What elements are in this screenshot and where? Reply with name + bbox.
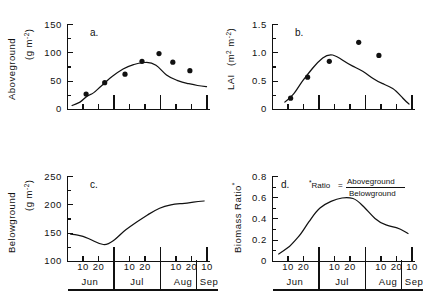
xtick-day-aug-20-right: 20 (391, 261, 403, 272)
xaxis-labels-left: 10 20 10 20 10 20 10 Jun Jul Aug Sep (0, 258, 218, 306)
panel-c-yaxis-title: Belowground (g m-2) (6, 180, 34, 253)
panel-c-ytick-150: 150 (44, 227, 62, 238)
panel-b-lai: LAI (m2 m-2) 1.5 1.0 0.5 0 (219, 0, 437, 153)
panel-a-aboveground: Aboveground (g m-2) 150 100 50 0 (0, 0, 218, 153)
panel-a-yaxis-unit: (g m-2) (23, 29, 34, 60)
panel-a-axes (68, 24, 211, 110)
xtick-day-jun-10-right: 10 (282, 261, 294, 272)
panel-c-ytick-250: 250 (44, 171, 62, 182)
panel-a-curve (72, 62, 206, 105)
panel-d-yaxis-title: Biomass Ratio* (231, 182, 243, 253)
panel-b-yaxis-title: LAI (m2 m-2) (225, 28, 236, 90)
panel-d-yaxis-title-main: Biomass Ratio* (231, 182, 243, 253)
ratio-numerator: Aboveground (347, 177, 395, 186)
panel-b-ytick-marks (273, 25, 279, 110)
ratio-denominator: Belowground (349, 189, 396, 198)
panel-a-xtick-marks (83, 95, 207, 110)
panel-d-ratio-annotation: *Ratio = Aboveground Belowground (309, 177, 405, 198)
panel-d-ytick-marks (273, 177, 279, 262)
panel-a-ytick-0: 0 (56, 103, 62, 114)
xtick-month-sep-right: Sep (405, 276, 423, 287)
panel-d-curve (279, 198, 408, 254)
xaxis-labels-right: 10 20 10 20 10 20 10 Jun Jul Aug Sep (219, 258, 437, 306)
panel-b-xtick-marks (288, 95, 412, 110)
xtick-day-sep-10-right: 10 (406, 261, 418, 272)
panel-b-ytick-1-0: 1.0 (252, 47, 267, 58)
xtick-month-jun-right: Jun (287, 276, 304, 287)
xtick-day-sep-10-left: 10 (201, 261, 213, 272)
panel-a-ytick-marks (68, 25, 74, 110)
xtick-day-jul-20-right: 20 (344, 261, 356, 272)
panel-c-curve (71, 201, 204, 245)
panel-a-ytick-50: 50 (50, 75, 62, 86)
panel-b-letter: b. (295, 27, 303, 38)
panel-d-ytick-0-8: 0.8 (252, 171, 267, 182)
panel-d-ytick-0-2: 0.2 (252, 234, 267, 245)
panel-b-ytick-1-5: 1.5 (252, 19, 267, 30)
panel-b-axes (273, 24, 416, 110)
xtick-month-aug-left: Aug (174, 276, 192, 287)
xtick-day-jul-20-left: 20 (139, 261, 151, 272)
panel-c-yaxis-title-main: Belowground (6, 192, 17, 253)
panel-c-letter: c. (90, 179, 98, 190)
xtick-day-aug-10-right: 10 (375, 261, 387, 272)
xtick-month-aug-right: Aug (379, 276, 397, 287)
xtick-day-jun-20-left: 20 (93, 261, 105, 272)
panel-c-ytick-marks (68, 177, 74, 262)
panel-c-ytick-200: 200 (44, 199, 62, 210)
xtick-month-jun-left: Jun (82, 276, 99, 287)
panel-a-yaxis-title-main: Aboveground (6, 38, 17, 100)
xtick-month-sep-left: Sep (200, 276, 218, 287)
xtick-day-jul-10-right: 10 (329, 261, 341, 272)
panel-a-yaxis-title: Aboveground (g m-2) (6, 29, 34, 100)
xtick-day-jun-10-left: 10 (77, 261, 89, 272)
panel-b-curve (285, 55, 409, 104)
panel-b-ytick-0: 0 (261, 103, 267, 114)
panel-b-yaxis-unit: (m2 m-2) (225, 28, 236, 66)
panel-c-axes (68, 176, 211, 262)
panel-a-letter: a. (90, 27, 98, 38)
panel-b-yaxis-title-main: LAI (225, 74, 236, 90)
ratio-star: *Ratio (309, 179, 331, 190)
panel-d-ytick-0-6: 0.6 (252, 192, 267, 203)
panel-a-data-points (84, 51, 193, 97)
panel-b-ytick-0-5: 0.5 (252, 75, 267, 86)
ratio-equals: = (338, 181, 343, 190)
panel-d-ytick-0-4: 0.4 (252, 213, 267, 224)
panel-d-letter: d. (281, 179, 289, 190)
xtick-day-jun-20-right: 20 (298, 261, 310, 272)
panel-a-ytick-150: 150 (44, 19, 62, 30)
xtick-month-jul-right: Jul (335, 276, 349, 287)
xtick-day-aug-10-left: 10 (170, 261, 182, 272)
panel-c-yaxis-unit: (g m-2) (23, 180, 34, 211)
panel-a-ytick-100: 100 (44, 47, 62, 58)
figure-four-panel-seasonal-biomass: Aboveground (g m-2) 150 100 50 0 (0, 0, 437, 306)
xtick-day-aug-20-left: 20 (186, 261, 198, 272)
xtick-day-jul-10-left: 10 (124, 261, 136, 272)
xtick-month-jul-left: Jul (130, 276, 144, 287)
panel-b-data-points (288, 40, 382, 101)
